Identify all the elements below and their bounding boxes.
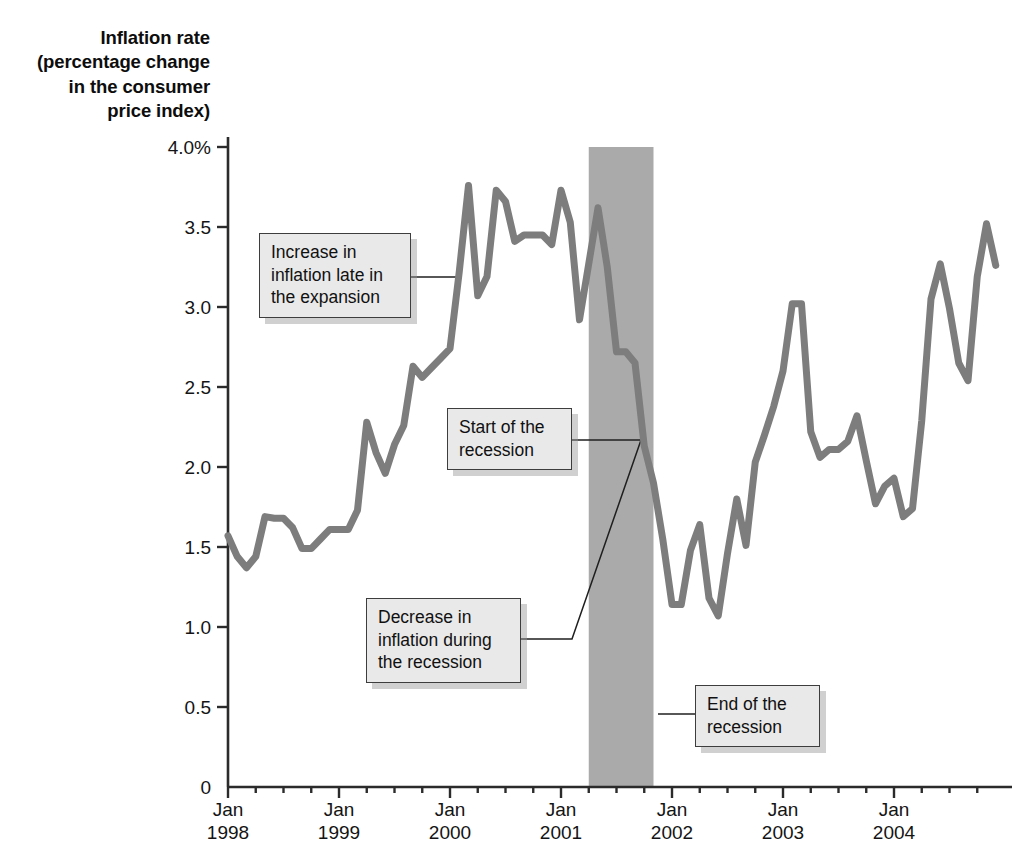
recession-shaded-band	[589, 147, 654, 787]
annotation-decrease-line-3: the recession	[378, 652, 482, 672]
annotation-end-line-2: recession	[707, 717, 782, 737]
annotation-decrease-line-1: Decrease in	[378, 607, 471, 627]
annotation-start-line-1: Start of the	[459, 417, 545, 437]
annotation-increase-in-inflation: Increase in inflation late in the expans…	[259, 233, 411, 318]
annotation-start-of-recession: Start of the recession	[447, 408, 572, 470]
annotation-increase-line-3: the expansion	[271, 287, 380, 307]
annotation-increase-line-2: inflation late in	[271, 265, 383, 285]
annotation-end-of-recession: End of the recession	[695, 685, 820, 747]
annotation-increase-line-1: Increase in	[271, 242, 357, 262]
annotation-decrease-in-inflation: Decrease in inflation during the recessi…	[366, 598, 521, 683]
annotation-end-line-1: End of the	[707, 694, 787, 714]
annotation-start-line-2: recession	[459, 440, 534, 460]
chart-figure: Inflation rate (percentage change in the…	[0, 0, 1026, 868]
annotation-decrease-line-2: inflation during	[378, 630, 492, 650]
